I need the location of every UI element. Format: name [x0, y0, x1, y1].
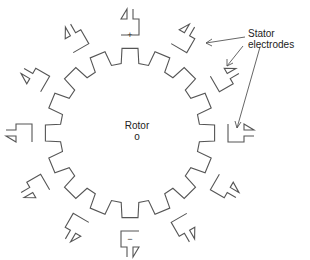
stator-label-line1: Stator	[248, 28, 294, 39]
stator-electrodes-label: Stator electrodes	[248, 28, 294, 50]
rotor-center-mark: o	[122, 131, 152, 142]
stator-electrode	[171, 213, 200, 245]
stator-electrode	[18, 63, 50, 92]
plus-sign: +	[127, 30, 132, 40]
stator-electrode	[6, 124, 32, 142]
stator-electrode	[18, 174, 50, 203]
stator-electrode	[228, 124, 254, 142]
stator-electrode	[60, 213, 89, 245]
stator-electrode	[210, 63, 242, 92]
stator-electrode	[210, 174, 242, 203]
rotor-label: Rotor o	[122, 120, 152, 142]
rotor-label-text: Rotor	[122, 120, 152, 131]
stator-label-line2: electrodes	[248, 39, 294, 50]
stator-electrode	[171, 21, 200, 53]
stator-electrode	[60, 21, 89, 53]
minus-sign: −	[127, 234, 132, 244]
